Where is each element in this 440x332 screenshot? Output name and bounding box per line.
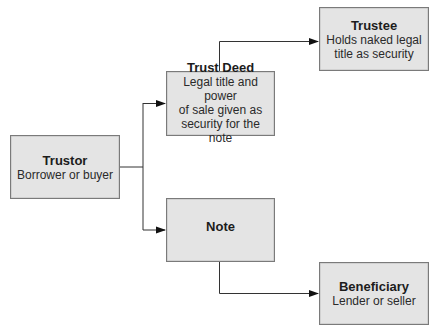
edge-trustor-branch (120, 103, 143, 230)
node-beneficiary: Beneficiary Lender or seller (319, 262, 429, 325)
node-description-line: Legal title and power (170, 75, 271, 103)
node-note: Note (166, 198, 275, 262)
node-title: Trustee (351, 18, 397, 33)
node-trust-deed: Trust Deed Legal title and power of sale… (166, 71, 275, 136)
node-trustee: Trustee Holds naked legal title as secur… (319, 7, 429, 71)
node-trustor: Trustor Borrower or buyer (10, 135, 120, 199)
node-title: Trust Deed (187, 60, 254, 75)
node-description-line: Holds naked legal (326, 33, 421, 47)
edge-note-to-beneficiary (220, 262, 319, 294)
node-description: Borrower or buyer (17, 168, 113, 182)
node-title: Note (206, 219, 235, 234)
node-description-line: of sale given as (179, 103, 262, 117)
node-title: Beneficiary (339, 279, 409, 294)
node-description-line: title as security (334, 47, 413, 61)
trust-deed-diagram: Trustor Borrower or buyer Trust Deed Leg… (0, 0, 440, 332)
node-description: Lender or seller (332, 294, 415, 308)
node-title: Trustor (43, 153, 88, 168)
node-description-line: security for the note (170, 117, 271, 145)
